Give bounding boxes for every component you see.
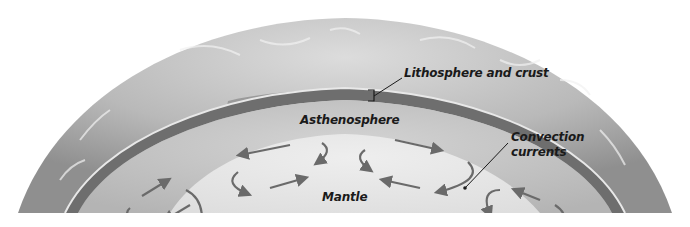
convection-leader-dot [463, 186, 467, 190]
lithosphere-label: Lithosphere and crust [404, 66, 549, 80]
convection-label-line2: currents [511, 145, 566, 159]
earth-layers-diagram: Lithosphere and crust Asthenosphere Conv… [0, 0, 690, 227]
asthenosphere-label: Asthenosphere [300, 113, 400, 127]
convection-label-line1: Convection [511, 130, 584, 144]
mantle-label: Mantle [322, 190, 367, 204]
